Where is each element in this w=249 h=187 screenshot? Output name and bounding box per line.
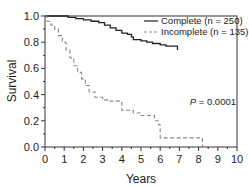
y-axis: 0.00.20.40.60.81.0 [24,10,45,153]
survival-chart: 0.00.20.40.60.81.0 012345678910 Complete… [0,0,249,187]
x-tick-label: 0 [42,153,48,165]
y-tick-label: 0.2 [24,115,39,127]
y-axis-label: Survival [5,60,19,103]
x-tick-label: 5 [138,153,144,165]
x-tick-label: 1 [61,153,67,165]
x-axis: 012345678910 [42,147,243,165]
chart-canvas: 0.00.20.40.60.81.0 012345678910 Complete… [0,0,249,187]
y-tick-label: 0.8 [24,36,39,48]
y-tick-label: 0.0 [24,141,39,153]
legend: Complete (n = 250)Incomplete (n = 135) [144,15,248,37]
x-tick-label: 4 [119,153,125,165]
x-tick-label: 8 [196,153,202,165]
legend-item-label: Complete (n = 250) [161,15,243,26]
x-tick-label: 10 [231,153,243,165]
legend-item-label: Incomplete (n = 135) [161,26,248,37]
x-tick-label: 3 [100,153,106,165]
x-axis-label: Years [126,172,156,186]
x-tick-label: 9 [215,153,221,165]
x-tick-label: 6 [157,153,163,165]
x-tick-label: 7 [176,153,182,165]
y-tick-label: 0.4 [24,89,39,101]
y-tick-label: 1.0 [24,10,39,22]
p-value-annotation: P = 0.0001 [190,96,236,107]
x-tick-label: 2 [80,153,86,165]
y-tick-label: 0.6 [24,62,39,74]
